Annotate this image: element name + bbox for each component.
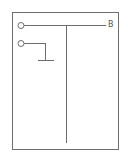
node-label-b: B [108, 21, 114, 29]
terminal-1-icon [18, 23, 24, 29]
terminal-2-icon [18, 41, 24, 47]
diagram-frame [13, 13, 119, 150]
